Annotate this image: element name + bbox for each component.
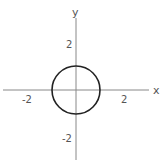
y-tick-label-neg2: -2 bbox=[62, 133, 72, 144]
x-tick-label-neg2: -2 bbox=[22, 94, 32, 105]
y-tick-label-2: 2 bbox=[66, 39, 72, 50]
plot-area: x y -2 2 2 -2 bbox=[0, 0, 167, 165]
x-axis-label: x bbox=[153, 84, 160, 97]
x-tick-label-2: 2 bbox=[121, 94, 127, 105]
y-axis-label: y bbox=[72, 6, 79, 19]
